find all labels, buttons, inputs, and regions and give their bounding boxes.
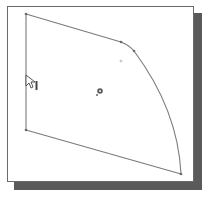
origin-icon (96, 88, 103, 96)
top-edge-line[interactable] (26, 14, 121, 42)
arc-center-point[interactable] (120, 60, 123, 63)
vertex-top-right-a[interactable] (120, 41, 123, 44)
vertex-bottom-right[interactable] (180, 173, 183, 176)
cursor-arrow-icon (26, 75, 38, 90)
vertical-constraint-icon (36, 81, 38, 90)
vertex-top-left[interactable] (25, 13, 28, 16)
vertex-bottom-left[interactable] (25, 129, 28, 132)
bottom-edge-line[interactable] (26, 130, 181, 174)
fillet-arc[interactable] (121, 42, 134, 51)
vertex-top-right-b[interactable] (133, 50, 136, 53)
sketch-drawing (0, 0, 209, 200)
right-arc[interactable] (134, 51, 181, 174)
